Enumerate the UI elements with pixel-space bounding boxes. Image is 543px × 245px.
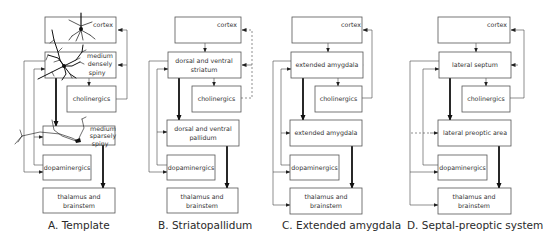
label-cholinergics: cholinergics xyxy=(467,95,505,103)
box-dorsal-ventral-pallidum xyxy=(167,120,239,146)
arrow-dopaminergics-to-septum xyxy=(423,69,439,165)
panel-caption: D. Septal-preoptic system xyxy=(407,219,543,231)
box-dorsal-ventral-striatum xyxy=(168,52,241,78)
label-dorsal-ventral: dorsal and ventral xyxy=(175,57,233,64)
panel-caption: B. Striatopallidum xyxy=(158,219,252,231)
label-pallidum: pallidum xyxy=(189,134,216,142)
label-thalamus: thalamus and xyxy=(452,193,495,200)
label-extended-amygdala: extended amygdala xyxy=(296,61,359,69)
label-brainstem: brainstem xyxy=(186,202,218,209)
panel-caption: A. Template xyxy=(48,219,110,231)
arrow-cholinergics-to-cortex xyxy=(510,30,524,98)
label-brainstem: brainstem xyxy=(310,202,342,209)
box-thalamus-brainstem xyxy=(290,188,362,214)
label-spiny: spiny xyxy=(92,140,109,148)
label-brainstem: brainstem xyxy=(458,202,490,209)
label-thalamus: thalamus and xyxy=(57,193,100,200)
arrow-dopaminergics-to-densely xyxy=(34,69,45,165)
label-cortex: cortex xyxy=(217,21,237,28)
label-lateral-septum: lateral septum xyxy=(452,61,498,69)
label-cortex: cortex xyxy=(341,21,361,28)
panel-a-template: cortex medium densely spiny cholinergics… xyxy=(15,13,127,231)
label-thalamus: thalamus and xyxy=(180,193,223,200)
label-cortex: cortex xyxy=(93,21,113,28)
arrow-densely-to-dopaminergics xyxy=(24,61,45,172)
label-cholinergics: cholinergics xyxy=(198,95,236,103)
label-medium: medium xyxy=(90,125,116,132)
label-thalamus: thalamus and xyxy=(304,193,347,200)
dashed-arrow-cholinergics-to-cortex xyxy=(241,30,252,98)
arrow-cholinergics-to-cortex xyxy=(362,30,372,98)
label-striatum: striatum xyxy=(191,66,218,73)
label-dopaminergics: dopaminergics xyxy=(439,164,485,172)
arrow-dopaminergics-to-amygdala xyxy=(281,69,291,165)
label-spiny: spiny xyxy=(89,69,106,77)
label-dorsal-ventral: dorsal and ventral xyxy=(174,125,232,132)
figure-diagram: cortex medium densely spiny cholinergics… xyxy=(0,0,543,245)
label-densely: densely xyxy=(88,60,113,68)
arrow-striatum-to-dopaminergics xyxy=(149,61,168,172)
label-extended-amygdala: extended amygdala xyxy=(295,129,358,137)
label-sparsely: sparsely xyxy=(90,132,117,140)
label-cortex: cortex xyxy=(487,21,507,28)
panel-d-septal-preoptic-system: cortex lateral septum cholinergics later… xyxy=(407,17,543,231)
box-thalamus-brainstem xyxy=(167,188,238,213)
arrow-dopaminergics-to-striatum xyxy=(157,69,168,165)
label-brainstem: brainstem xyxy=(63,202,95,209)
label-cholinergics: cholinergics xyxy=(73,95,111,103)
label-dopaminergics: dopaminergics xyxy=(44,164,90,172)
panel-c-extended-amygdala: cortex extended amygdala cholinergics ex… xyxy=(273,17,401,231)
box-thalamus-brainstem xyxy=(438,188,511,214)
box-thalamus-brainstem xyxy=(43,188,115,213)
label-dopaminergics: dopaminergics xyxy=(291,164,337,172)
label-lateral-preoptic-area: lateral preoptic area xyxy=(443,129,507,137)
panel-caption: C. Extended amygdala xyxy=(282,219,401,231)
arrow-cholinergics-to-cortex xyxy=(116,30,127,99)
label-dopaminergics: dopaminergics xyxy=(168,164,214,172)
label-medium: medium xyxy=(87,52,113,59)
panel-b-striatopallidum: cortex dorsal and ventral striatum choli… xyxy=(149,17,252,231)
label-cholinergics: cholinergics xyxy=(320,95,358,103)
